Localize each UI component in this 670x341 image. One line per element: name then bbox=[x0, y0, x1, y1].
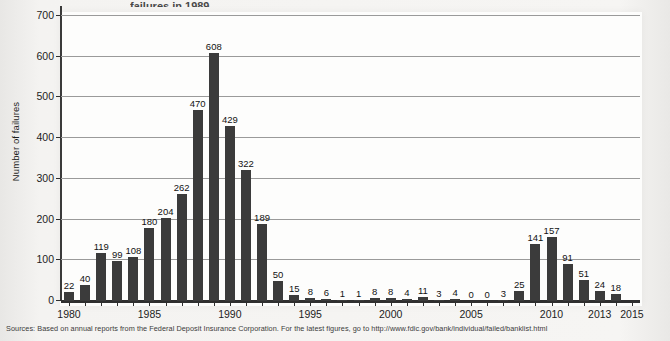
bar-2014[interactable]: 18 bbox=[611, 294, 621, 301]
bar-value-label-1987: 262 bbox=[174, 182, 190, 193]
bar-value-label-1982: 119 bbox=[94, 241, 109, 252]
gridline-300: 300 bbox=[61, 178, 640, 179]
bar-2012[interactable]: 51 bbox=[579, 280, 589, 301]
x-tick-label-1985: 1985 bbox=[138, 308, 161, 320]
y-tick-mark-100 bbox=[56, 259, 61, 260]
bar-value-label-1983: 99 bbox=[112, 249, 123, 260]
y-tick-mark-300 bbox=[56, 178, 61, 179]
y-tick-label-300: 300 bbox=[36, 172, 54, 184]
bar-value-label-1981: 40 bbox=[80, 273, 91, 284]
y-tick-mark-600 bbox=[56, 56, 61, 57]
x-axis-line bbox=[61, 301, 640, 303]
bar-value-label-1995: 8 bbox=[308, 286, 313, 297]
x-tick-label-2010: 2010 bbox=[540, 308, 563, 320]
y-axis-title: Number of failures bbox=[10, 72, 21, 212]
bar-1992[interactable]: 189 bbox=[257, 224, 267, 301]
bar-1981[interactable]: 40 bbox=[80, 285, 90, 301]
bar-2013[interactable]: 24 bbox=[595, 291, 605, 301]
y-tick-label-200: 200 bbox=[36, 213, 54, 225]
bar-value-label-2003: 3 bbox=[436, 288, 441, 299]
x-tick-label-2005: 2005 bbox=[459, 308, 482, 320]
bar-value-label-2006: 0 bbox=[485, 289, 490, 300]
bar-value-label-2011: 91 bbox=[562, 252, 573, 263]
bar-1982[interactable]: 119 bbox=[96, 253, 106, 301]
bar-value-label-2014: 18 bbox=[611, 282, 622, 293]
bar-1987[interactable]: 262 bbox=[177, 194, 187, 301]
bar-value-label-1993: 50 bbox=[273, 269, 284, 280]
bar-value-label-2008: 25 bbox=[514, 279, 525, 290]
bar-value-label-2009: 141 bbox=[528, 232, 544, 243]
bar-1990[interactable]: 429 bbox=[225, 126, 235, 301]
bar-value-label-2012: 51 bbox=[578, 268, 589, 279]
bar-2011[interactable]: 91 bbox=[563, 264, 573, 301]
bar-value-label-1984: 108 bbox=[125, 245, 141, 256]
bar-value-label-1990: 429 bbox=[222, 114, 238, 125]
bank-failures-bar-chart: Number of failures 010020030040050060070… bbox=[0, 8, 670, 310]
y-tick-label-100: 100 bbox=[36, 253, 54, 265]
bar-1983[interactable]: 99 bbox=[112, 261, 122, 301]
bar-value-label-1988: 470 bbox=[190, 98, 206, 109]
x-tick-label-1995: 1995 bbox=[299, 308, 322, 320]
gridline-400: 400 bbox=[61, 137, 640, 138]
bar-value-label-1997: 1 bbox=[340, 288, 345, 299]
bar-value-label-2002: 11 bbox=[418, 285, 428, 296]
bar-1984[interactable]: 108 bbox=[128, 257, 138, 301]
bar-value-label-1996: 6 bbox=[324, 287, 329, 298]
bar-1986[interactable]: 204 bbox=[161, 218, 171, 301]
bar-2009[interactable]: 141 bbox=[530, 244, 540, 301]
y-tick-label-500: 500 bbox=[36, 90, 54, 102]
y-tick-mark-200 bbox=[56, 219, 61, 220]
bar-value-label-1980: 22 bbox=[64, 280, 75, 291]
y-tick-label-0: 0 bbox=[48, 294, 54, 306]
bar-value-label-1999: 8 bbox=[372, 286, 377, 297]
bar-2010[interactable]: 157 bbox=[547, 237, 557, 301]
y-tick-label-400: 400 bbox=[36, 131, 54, 143]
bar-value-label-1994: 15 bbox=[289, 283, 300, 294]
bar-value-label-1989: 608 bbox=[206, 41, 222, 52]
x-tick-label-2013: 2013 bbox=[588, 308, 611, 320]
bar-value-label-2000: 8 bbox=[388, 286, 393, 297]
y-tick-mark-700 bbox=[56, 15, 61, 16]
page-title-fragment: failures in 1989 bbox=[130, 0, 330, 7]
y-axis-line bbox=[60, 6, 62, 301]
bar-1989[interactable]: 608 bbox=[209, 53, 219, 301]
gridline-700: 700 bbox=[61, 15, 640, 16]
bar-value-label-2001: 4 bbox=[404, 287, 409, 298]
bar-value-label-2005: 0 bbox=[468, 289, 473, 300]
bar-value-label-1985: 180 bbox=[142, 216, 158, 227]
source-note: Sources: Based on annual reports from th… bbox=[6, 324, 666, 333]
gridline-500: 500 bbox=[61, 96, 640, 97]
x-tick-label-2000: 2000 bbox=[379, 308, 402, 320]
bar-1991[interactable]: 322 bbox=[241, 170, 251, 301]
x-tick-label-1980: 1980 bbox=[57, 308, 80, 320]
plot-area: 0100200300400500600700 22401199910818020… bbox=[61, 16, 640, 301]
y-tick-mark-400 bbox=[56, 137, 61, 138]
bar-1988[interactable]: 470 bbox=[193, 110, 203, 301]
bar-2008[interactable]: 25 bbox=[514, 291, 524, 301]
gridline-600: 600 bbox=[61, 56, 640, 57]
bar-1993[interactable]: 50 bbox=[273, 281, 283, 301]
bar-value-label-2004: 4 bbox=[452, 287, 457, 298]
bar-value-label-1986: 204 bbox=[158, 206, 174, 217]
x-tick-label-2015: 2015 bbox=[620, 308, 643, 320]
bar-value-label-1998: 1 bbox=[356, 288, 361, 299]
y-tick-label-700: 700 bbox=[36, 9, 54, 21]
y-tick-mark-500 bbox=[56, 96, 61, 97]
bar-value-label-1991: 322 bbox=[238, 158, 254, 169]
bar-value-label-2007: 3 bbox=[501, 288, 506, 299]
x-tick-label-1990: 1990 bbox=[218, 308, 241, 320]
y-tick-label-600: 600 bbox=[36, 50, 54, 62]
bar-value-label-1992: 189 bbox=[254, 212, 270, 223]
bar-1985[interactable]: 180 bbox=[144, 228, 154, 301]
bar-1980[interactable]: 22 bbox=[64, 292, 74, 301]
bar-value-label-2013: 24 bbox=[594, 279, 605, 290]
bar-value-label-2010: 157 bbox=[544, 225, 560, 236]
